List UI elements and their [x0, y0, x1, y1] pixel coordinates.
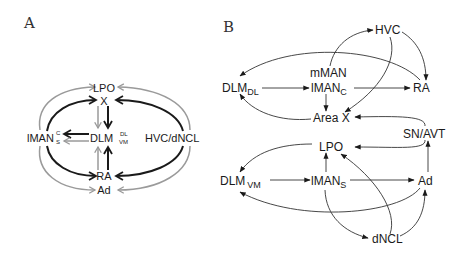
node-b-lpo: LPO [319, 140, 343, 154]
node-b-iman-c: lMANC [311, 81, 347, 97]
node-a-x: X [100, 95, 108, 107]
edge-dncl-to-lpo [341, 154, 392, 234]
edge-hvc-to-x [116, 100, 183, 131]
node-a-ra: RA [96, 170, 112, 182]
edge-sn-avt-to-area-x [355, 117, 425, 126]
node-a-ad: Ad [97, 184, 110, 196]
node-b-ad: Ad [418, 174, 433, 188]
node-b-sn-avt: SN/AVT [403, 127, 446, 141]
node-a-iman-sup: C [56, 130, 61, 136]
edge-iman-c-to-ra [47, 146, 96, 176]
edge-hvc-to-ra [116, 146, 183, 176]
node-a-lpo: LPO [93, 82, 115, 94]
edge-iman-s-to-lpo [40, 87, 95, 130]
edge-iman-s-to-dncl [325, 190, 368, 238]
node-b-ra: RA [413, 81, 430, 95]
edge-lpo-to-dlm-vm [240, 144, 312, 172]
node-b-iman-s: lMANS [311, 174, 346, 190]
edge-ad-to-dlm-vm [240, 188, 420, 212]
edge-area-x-to-dlm-dl [240, 94, 311, 120]
panel-a-label: A [23, 14, 35, 32]
edge-iman-c-to-x [47, 100, 96, 131]
edge-dncl-to-ad [400, 190, 425, 236]
panel-a: A LPO X lMAN C S DLM DL VM HVC/dNCL RA A… [23, 14, 199, 196]
edge-mman-to-hvc [330, 30, 373, 66]
node-a-hvc-dncl: HVC/dNCL [145, 132, 199, 144]
node-a-dlm-sub: VM [119, 139, 128, 145]
edge-hvc-to-area-x [345, 37, 392, 112]
panel-b: B HVC mMAN DLMDL lMANC RA Area X SN/AVT … [220, 18, 446, 246]
node-b-dlm-vm: DLMVM [220, 174, 261, 190]
node-a-iman-sub: S [56, 139, 60, 145]
edge-sn-avt-to-lpo [355, 140, 425, 147]
panel-b-label: B [223, 18, 234, 36]
node-a-dlm-sup: DL [120, 131, 128, 137]
edge-hvc-to-ra [402, 32, 426, 80]
figure: A LPO X lMAN C S DLM DL VM HVC/dNCL RA A… [0, 0, 467, 256]
node-a-iman: lMAN [27, 132, 54, 144]
node-b-dlm-dl: DLMDL [222, 81, 259, 97]
node-b-mman: mMAN [310, 66, 347, 80]
node-b-area-x: Area X [313, 111, 350, 125]
node-a-dlm: DLM [90, 132, 113, 144]
node-b-hvc: HVC [375, 23, 401, 37]
node-b-dncl: dNCL [372, 232, 403, 246]
